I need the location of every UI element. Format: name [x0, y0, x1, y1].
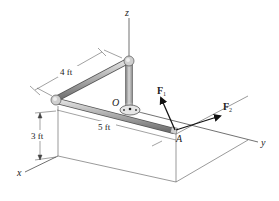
- dimension-3ft: 3 ft: [30, 111, 56, 160]
- svg-text:3 ft: 3 ft: [31, 131, 44, 141]
- svg-text:x: x: [16, 167, 22, 178]
- elbow-left: [51, 95, 61, 105]
- svg-text:F1: F1: [157, 85, 166, 97]
- z-axis: z: [124, 7, 129, 58]
- elbow-top: [124, 56, 134, 66]
- svg-text:5 ft: 5 ft: [98, 122, 111, 132]
- svg-text:y: y: [260, 137, 266, 148]
- point-A-label: A: [175, 133, 183, 144]
- pipe-vertical: [126, 62, 133, 108]
- force-F2-arrow: F2: [176, 101, 232, 130]
- svg-text:F2: F2: [223, 101, 232, 113]
- force-F1-arrow: F1: [157, 85, 175, 130]
- y-axis: y: [131, 110, 266, 148]
- x-axis: x: [16, 156, 58, 178]
- svg-text:z: z: [124, 7, 129, 18]
- pipe-force-diagram: x y z 4 ft 3 ft 5 ft: [0, 0, 279, 201]
- point-O-label: O: [112, 97, 119, 108]
- svg-text:4 ft: 4 ft: [60, 67, 73, 77]
